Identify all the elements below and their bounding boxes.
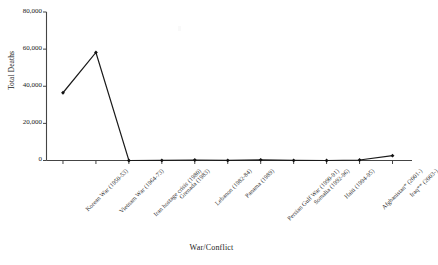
data-point-marker <box>358 158 362 162</box>
data-point-marker <box>259 158 263 162</box>
y-tick-label: 0 <box>2 156 42 163</box>
y-tick-label: 20,000 <box>2 119 42 126</box>
data-point-marker <box>292 159 296 163</box>
y-tick-label: 40,000 <box>2 82 42 89</box>
data-point-marker <box>127 159 131 163</box>
data-point-marker <box>226 159 230 163</box>
data-point-marker <box>193 158 197 162</box>
data-point-marker <box>325 159 329 163</box>
y-tick-label: 60,000 <box>2 45 42 52</box>
y-tick-label: 80,000 <box>2 8 42 15</box>
data-point-marker <box>391 154 395 158</box>
x-axis-title: War/Conflict <box>0 243 423 252</box>
axis-lines <box>47 12 413 161</box>
data-point-markers <box>61 51 394 163</box>
data-point-marker <box>160 159 164 163</box>
data-line-series <box>63 52 393 160</box>
y-axis-title: Total Deaths <box>7 31 16 111</box>
